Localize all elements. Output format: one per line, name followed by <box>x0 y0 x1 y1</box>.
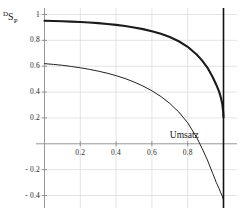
y-tick-label-5: - 0.2 <box>4 165 40 174</box>
x-tick-label-3: 0.8 <box>179 148 197 157</box>
x-tick-label-0: 0.2 <box>71 148 89 157</box>
y-axis-title-subscript: P <box>14 17 18 25</box>
x-tick-label-2: 0.6 <box>143 148 161 157</box>
y-tick-label-6: - 0.4 <box>4 191 40 200</box>
gridlines-group <box>36 8 237 208</box>
x-tick-label-1: 0.4 <box>107 148 125 157</box>
y-tick-label-1: 0.8 <box>4 35 40 44</box>
chart-plot-area: DSP Umsatz 0.20.40.60.810.80.60.40.2- 0.… <box>0 0 241 223</box>
y-tick-label-0: 1 <box>4 10 40 19</box>
y-tick-label-3: 0.4 <box>4 87 40 96</box>
data-curves-group <box>45 21 224 200</box>
curve-upper-curve <box>45 21 224 118</box>
y-tick-label-2: 0.6 <box>4 61 40 70</box>
x-axis-title: Umsatz <box>170 130 199 140</box>
axes-group <box>36 8 237 208</box>
y-tick-label-4: 0.2 <box>4 113 40 122</box>
